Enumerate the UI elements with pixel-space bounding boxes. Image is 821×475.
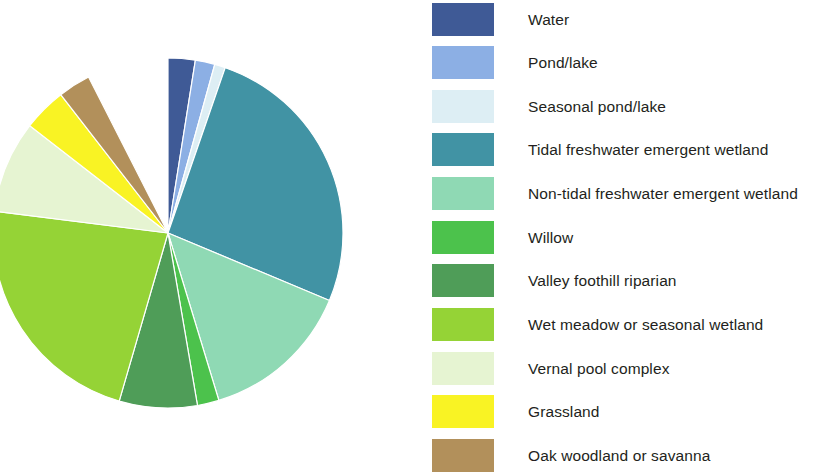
legend-item[interactable]: Seasonal pond/lake xyxy=(432,90,666,123)
legend-color-swatch xyxy=(432,264,494,297)
legend-item[interactable]: Tidal freshwater emergent wetland xyxy=(432,133,769,166)
legend-item-label: Seasonal pond/lake xyxy=(528,98,666,115)
legend-item[interactable]: Grassland xyxy=(432,395,600,428)
legend-color-swatch xyxy=(432,352,494,385)
chart-legend: WaterPond/lakeSeasonal pond/lakeTidal fr… xyxy=(432,0,821,475)
legend-item-label: Pond/lake xyxy=(528,54,598,71)
legend-item-label: Wet meadow or seasonal wetland xyxy=(528,316,763,333)
pie-chart-svg xyxy=(0,0,400,475)
legend-item-label: Grassland xyxy=(528,403,600,420)
legend-item[interactable]: Wet meadow or seasonal wetland xyxy=(432,308,763,341)
legend-item[interactable]: Vernal pool complex xyxy=(432,352,669,385)
legend-color-swatch xyxy=(432,395,494,428)
legend-color-swatch xyxy=(432,90,494,123)
legend-color-swatch xyxy=(432,221,494,254)
pie-chart-area xyxy=(0,0,400,475)
legend-item-label: Water xyxy=(528,11,569,28)
legend-color-swatch xyxy=(432,46,494,79)
legend-color-swatch xyxy=(432,133,494,166)
legend-item[interactable]: Willow xyxy=(432,221,573,254)
legend-item[interactable]: Water xyxy=(432,3,569,36)
legend-item-label: Vernal pool complex xyxy=(528,360,669,377)
legend-item[interactable]: Oak woodland or savanna xyxy=(432,439,710,472)
legend-color-swatch xyxy=(432,177,494,210)
legend-item-label: Valley foothill riparian xyxy=(528,272,677,289)
legend-item[interactable]: Pond/lake xyxy=(432,46,598,79)
legend-item-label: Oak woodland or savanna xyxy=(528,447,710,464)
legend-item-label: Tidal freshwater emergent wetland xyxy=(528,141,769,158)
legend-item-label: Non-tidal freshwater emergent wetland xyxy=(528,185,798,202)
legend-color-swatch xyxy=(432,439,494,472)
legend-color-swatch xyxy=(432,3,494,36)
pie-chart-figure: WaterPond/lakeSeasonal pond/lakeTidal fr… xyxy=(0,0,821,475)
legend-item[interactable]: Non-tidal freshwater emergent wetland xyxy=(432,177,798,210)
legend-item-label: Willow xyxy=(528,229,573,246)
legend-item[interactable]: Valley foothill riparian xyxy=(432,264,677,297)
legend-color-swatch xyxy=(432,308,494,341)
